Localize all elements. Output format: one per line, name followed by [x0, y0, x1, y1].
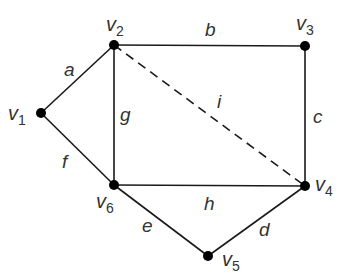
vertex-label-v6: v6 [96, 190, 114, 216]
vertex-v6 [109, 180, 119, 190]
edge-label-b: b [205, 19, 216, 40]
edge-h [114, 185, 305, 186]
graph-diagram: v1 v2 v3 v4 v5 v6 a b c d e f g h i [0, 0, 343, 280]
vertex-label-v1: v1 [8, 102, 26, 128]
vertex-label-v5: v5 [222, 248, 240, 274]
graph-canvas: v1 v2 v3 v4 v5 v6 a b c d e f g h i [0, 0, 343, 280]
edge-a [41, 45, 114, 113]
edge-label-d: d [259, 219, 271, 240]
edge-f [41, 113, 114, 185]
edge-label-f: f [62, 151, 69, 172]
vertex-v5 [203, 251, 213, 261]
edge-label-c: c [313, 106, 323, 127]
vertex-v2 [109, 40, 119, 50]
edge-label-i: i [217, 91, 222, 112]
vertex-v4 [300, 181, 310, 191]
edge-label-g: g [120, 104, 131, 125]
vertex-label-v2: v2 [106, 13, 124, 39]
vertex-label-v4: v4 [315, 173, 333, 199]
edge-d [208, 186, 305, 256]
vertex-v3 [300, 41, 310, 51]
edge-label-e: e [142, 215, 153, 236]
vertex-label-v3: v3 [296, 12, 314, 38]
vertex-v1 [36, 108, 46, 118]
edge-i [114, 45, 305, 186]
edge-e [114, 185, 208, 256]
edge-label-h: h [204, 193, 215, 214]
edge-label-a: a [64, 59, 75, 80]
edge-b [114, 45, 305, 46]
